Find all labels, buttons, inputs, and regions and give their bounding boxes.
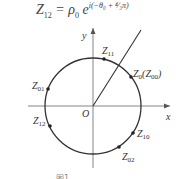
label-z02: Z02 xyxy=(122,151,135,164)
x-axis-arrow-icon xyxy=(164,104,170,109)
point-z11 xyxy=(102,57,106,61)
point-z02 xyxy=(117,145,121,149)
y-axis-label: y xyxy=(81,30,87,41)
label-z10: Z10 xyxy=(137,128,150,141)
point-z12 xyxy=(48,124,52,128)
complex-plane-diagram: y x O Z11 Z0(Z00) Z01 Z12 Z10 Z02 xyxy=(0,0,179,179)
label-z12: Z12 xyxy=(33,115,46,128)
label-z11: Z11 xyxy=(102,45,115,58)
origin-label: O xyxy=(82,108,89,119)
x-axis-label: x xyxy=(165,111,171,122)
point-z01 xyxy=(46,87,50,91)
figure-caption: 图1 …… xyxy=(56,172,88,179)
point-z10 xyxy=(131,131,135,135)
y-axis-arrow-icon xyxy=(91,28,96,34)
label-z0: Z0(Z00) xyxy=(133,68,162,81)
label-z01: Z01 xyxy=(32,80,45,93)
